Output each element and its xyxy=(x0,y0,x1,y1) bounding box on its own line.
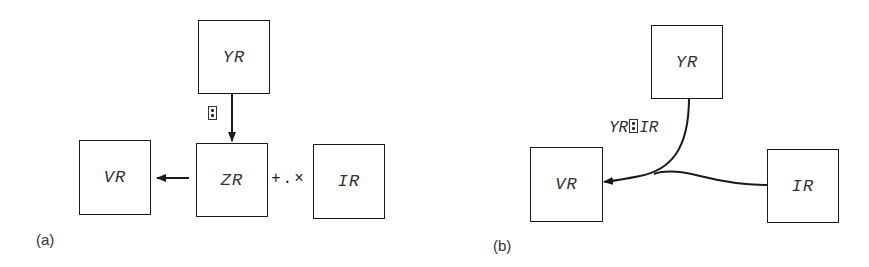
box-yr-b-label: YR xyxy=(676,53,698,72)
curve-yr-to-vr xyxy=(604,98,689,182)
box-vr-b: VR xyxy=(530,147,603,222)
inner-product-operator: +.× xyxy=(271,170,306,188)
box-ir-a-label: IR xyxy=(338,172,360,191)
matrix-divide-icon xyxy=(629,119,638,133)
box-vr-a-label: VR xyxy=(104,168,126,187)
curve-ir-to-join xyxy=(654,172,767,185)
edge-label-right: IR xyxy=(639,119,658,137)
panel-label-b: (b) xyxy=(493,237,511,254)
box-ir-b: IR xyxy=(767,149,839,223)
box-yr-a-label: YR xyxy=(223,48,245,67)
box-ir-a: IR xyxy=(313,144,385,219)
box-ir-b-label: IR xyxy=(792,177,814,196)
box-zr-a: ZR xyxy=(196,143,268,217)
box-vr-a: VR xyxy=(79,140,151,215)
box-yr-a: YR xyxy=(198,20,270,94)
edge-label-left: YR xyxy=(609,119,628,137)
box-zr-a-label: ZR xyxy=(221,171,243,190)
box-yr-b: YR xyxy=(651,25,723,99)
edge-label-yr-divide-ir: YRIR xyxy=(609,119,658,137)
diagram-connectors xyxy=(0,0,869,267)
panel-label-a: (a) xyxy=(36,231,54,248)
matrix-divide-icon xyxy=(207,106,218,124)
box-vr-b-label: VR xyxy=(555,175,577,194)
